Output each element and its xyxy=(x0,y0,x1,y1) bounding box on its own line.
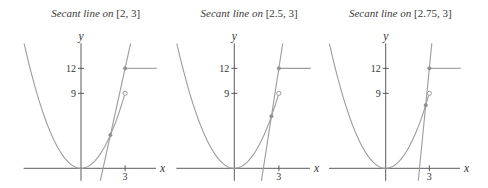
chart-panel-3: Secant line on [2.75, 3]xy3129 xyxy=(329,7,470,182)
closed-endpoint-marker xyxy=(277,67,280,70)
title-interval: [2, 3] xyxy=(116,7,140,19)
x-axis-label: x xyxy=(463,162,470,174)
secant-line-figure: Secant line on [2, 3]xy3129Secant line o… xyxy=(0,0,488,188)
secant-line xyxy=(261,43,282,180)
title-prefix: Secant line on xyxy=(349,7,412,19)
x-axis-label: x xyxy=(313,162,320,174)
panel-title: Secant line on [2, 3] xyxy=(51,7,140,19)
x-axis-label: x xyxy=(159,162,166,174)
secant-start-point xyxy=(424,104,427,107)
title-interval: [2.5, 3] xyxy=(266,7,298,19)
open-endpoint-marker xyxy=(277,91,281,95)
open-endpoint-marker xyxy=(123,91,127,95)
secant-line xyxy=(418,43,432,180)
y-tick-label: 12 xyxy=(371,63,381,74)
secant-start-point xyxy=(109,133,112,136)
x-tick-label: 3 xyxy=(427,171,432,182)
x-tick-label: 3 xyxy=(123,171,128,182)
y-axis-label: y xyxy=(231,30,238,43)
secant-start-point xyxy=(270,115,273,118)
closed-endpoint-marker xyxy=(428,67,431,70)
y-tick-label: 12 xyxy=(219,63,229,74)
panel-title: Secant line on [2.5, 3] xyxy=(201,7,298,19)
chart-panel-2: Secant line on [2.5, 3]xy3129 xyxy=(176,7,320,182)
panel-title: Secant line on [2.75, 3] xyxy=(349,7,452,19)
secant-line xyxy=(100,43,130,180)
chart-panel-1: Secant line on [2, 3]xy3129 xyxy=(24,7,166,182)
title-prefix: Secant line on xyxy=(51,7,114,19)
closed-endpoint-marker xyxy=(123,67,126,70)
y-tick-label: 12 xyxy=(66,63,76,74)
y-tick-label: 9 xyxy=(376,88,381,99)
title-interval: [2.75, 3] xyxy=(414,7,452,19)
x-tick-label: 3 xyxy=(276,171,281,182)
title-prefix: Secant line on xyxy=(201,7,264,19)
y-tick-label: 9 xyxy=(71,88,76,99)
y-axis-label: y xyxy=(77,30,84,43)
open-endpoint-marker xyxy=(427,91,431,95)
y-tick-label: 9 xyxy=(224,88,229,99)
y-axis-label: y xyxy=(382,30,389,43)
